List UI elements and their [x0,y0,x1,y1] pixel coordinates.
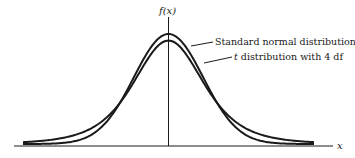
t-leader-line [204,57,232,63]
t-annotation: t distribution with 4 df [234,51,344,62]
y-axis-label: f(x) [158,5,176,16]
normal-leader-line [191,42,213,46]
t-annotation-text: distribution with 4 df [238,51,345,62]
x-axis-label: x [337,140,343,151]
normal-annotation: Standard normal distribution [215,36,355,47]
distribution-figure: f(x) x Standard normal distribution t di… [0,0,355,158]
